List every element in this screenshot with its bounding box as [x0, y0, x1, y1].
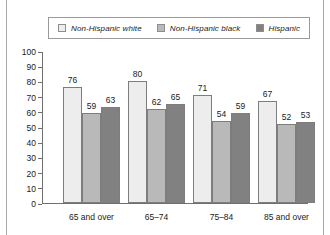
- bar-value-label: 63: [106, 95, 115, 105]
- legend-item[interactable]: Non-Hispanic black: [157, 24, 241, 33]
- legend-item[interactable]: Non-Hispanic white: [58, 24, 142, 33]
- bar-value-label: 76: [68, 75, 77, 85]
- bar-group: 765963: [63, 87, 120, 203]
- y-axis-tick-label: 30: [27, 153, 36, 163]
- bar-value-label: 54: [217, 109, 226, 119]
- legend-label: Non-Hispanic white: [71, 24, 142, 33]
- bar-slot: 76: [63, 87, 82, 203]
- bar-slot: 54: [212, 121, 231, 203]
- bar-group: 806265: [128, 81, 185, 203]
- bar-slot: 80: [128, 81, 147, 203]
- bar-slot: 67: [258, 101, 277, 203]
- y-axis-tick: [38, 128, 42, 129]
- y-axis-tick-label: 80: [27, 77, 36, 87]
- bar-value-label: 59: [236, 101, 245, 111]
- bar-value-label: 59: [87, 101, 96, 111]
- bar-value-label: 67: [263, 89, 272, 99]
- y-axis-tick: [38, 67, 42, 68]
- page-rule-right: [323, 0, 324, 235]
- chart-plot-area: 1009080706050403020100765963806265715459…: [18, 52, 314, 227]
- bar-group: 675253: [258, 101, 315, 203]
- bar-value-label: 53: [301, 110, 310, 120]
- x-axis-category-label: 65 and over: [69, 212, 114, 222]
- y-axis-tick-label: 20: [27, 169, 36, 179]
- legend-swatch-non-hispanic-white: [58, 24, 66, 32]
- legend-swatch-non-hispanic-black: [157, 24, 165, 32]
- bar[interactable]: 65: [166, 104, 185, 203]
- y-axis-tick-label: 70: [27, 93, 36, 103]
- bar-slot: 52: [277, 124, 296, 203]
- bar[interactable]: 67: [258, 101, 277, 203]
- legend-item[interactable]: Hispanic: [256, 24, 300, 33]
- bar-slot: 62: [147, 109, 166, 203]
- x-axis-category-label: 75–84: [210, 212, 234, 222]
- bar-slot: 59: [82, 113, 101, 203]
- y-axis-tick-label: 100: [22, 47, 36, 57]
- y-axis-tick-label: 50: [27, 123, 36, 133]
- y-axis-tick: [38, 188, 42, 189]
- page-rule-left: [6, 0, 7, 235]
- y-axis-tick: [38, 143, 42, 144]
- x-axis-category-label: 85 and over: [264, 212, 309, 222]
- y-axis-tick: [38, 82, 42, 83]
- bar[interactable]: 59: [82, 113, 101, 203]
- y-axis-tick: [38, 52, 42, 53]
- legend-label: Non-Hispanic black: [170, 24, 241, 33]
- y-axis-tick: [38, 158, 42, 159]
- legend-swatch-hispanic: [256, 24, 264, 32]
- bar-value-label: 62: [152, 97, 161, 107]
- y-axis-tick-label: 10: [27, 184, 36, 194]
- bar-value-label: 71: [198, 83, 207, 93]
- y-axis-tick: [38, 112, 42, 113]
- y-axis-tick-label: 90: [27, 62, 36, 72]
- bar-slot: 71: [193, 95, 212, 203]
- bar-group: 715459: [193, 95, 250, 203]
- y-axis-line: [42, 52, 43, 204]
- y-axis-tick: [38, 204, 42, 205]
- bar[interactable]: 63: [101, 107, 120, 203]
- bar[interactable]: 76: [63, 87, 82, 203]
- bar-value-label: 65: [171, 92, 180, 102]
- bar[interactable]: 52: [277, 124, 296, 203]
- bar[interactable]: 53: [296, 122, 315, 203]
- bar[interactable]: 54: [212, 121, 231, 203]
- bar-slot: 65: [166, 104, 185, 203]
- bar[interactable]: 62: [147, 109, 166, 203]
- chart-legend: Non-Hispanic whiteNon-Hispanic blackHisp…: [48, 17, 310, 39]
- x-axis-baseline: [42, 203, 308, 204]
- bar-value-label: 52: [282, 112, 291, 122]
- legend-label: Hispanic: [269, 24, 300, 33]
- y-axis-tick: [38, 97, 42, 98]
- y-axis-tick: [38, 173, 42, 174]
- bar-slot: 53: [296, 122, 315, 203]
- chart-axes: 1009080706050403020100765963806265715459…: [42, 52, 308, 204]
- y-axis-tick-label: 0: [31, 199, 36, 209]
- x-axis-category-label: 65–74: [145, 212, 169, 222]
- bar-slot: 63: [101, 107, 120, 203]
- bar-value-label: 80: [133, 69, 142, 79]
- bar[interactable]: 59: [231, 113, 250, 203]
- bar-slot: 59: [231, 113, 250, 203]
- chart-page: Non-Hispanic whiteNon-Hispanic blackHisp…: [0, 0, 330, 235]
- y-axis-tick-label: 40: [27, 138, 36, 148]
- y-axis-tick-label: 60: [27, 108, 36, 118]
- bar[interactable]: 80: [128, 81, 147, 203]
- bar[interactable]: 71: [193, 95, 212, 203]
